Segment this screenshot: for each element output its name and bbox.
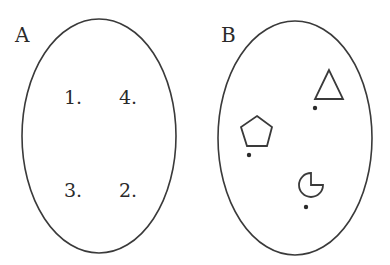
panel-b-label: B bbox=[221, 23, 236, 47]
item-2: 2. bbox=[119, 179, 137, 201]
panel-a-label: A bbox=[14, 23, 30, 47]
set-a-ellipse bbox=[22, 19, 176, 253]
pacman-point bbox=[304, 205, 308, 209]
triangle-point bbox=[313, 106, 317, 110]
item-4: 4. bbox=[119, 86, 137, 108]
set-b-ellipse bbox=[218, 21, 372, 255]
item-1: 1. bbox=[64, 86, 82, 108]
pentagon-icon bbox=[241, 116, 272, 146]
item-3: 3. bbox=[64, 179, 82, 201]
pentagon-point bbox=[247, 153, 251, 157]
panel-b: B bbox=[218, 21, 372, 255]
pacman-icon bbox=[299, 173, 323, 197]
triangle-icon bbox=[315, 70, 343, 99]
panel-a: A 1. 4. 3. 2. bbox=[14, 19, 176, 253]
diagram-canvas: A 1. 4. 3. 2. B bbox=[0, 0, 390, 265]
